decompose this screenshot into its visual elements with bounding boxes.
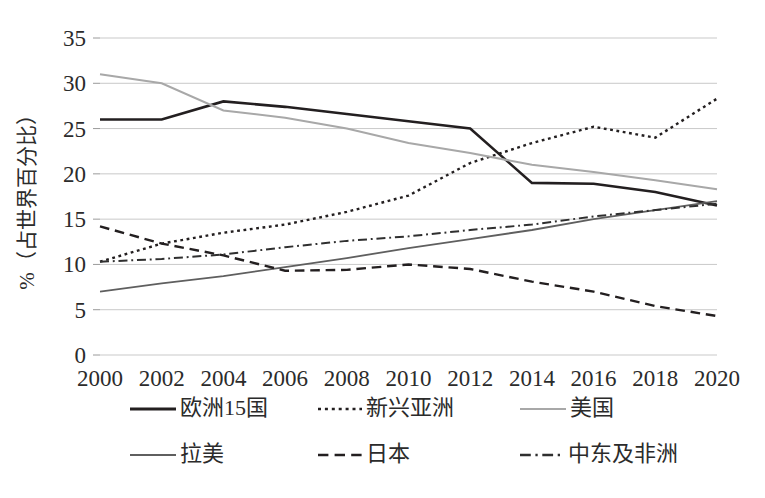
y-tick-label: 35: [63, 26, 86, 51]
x-tick-label: 2010: [386, 366, 432, 391]
y-axis-tick-labels: 05101520253035: [63, 26, 86, 368]
x-tick-label: 2004: [200, 366, 247, 391]
y-tick-label: 25: [63, 117, 86, 142]
series-line-0: [100, 101, 717, 205]
x-tick-label: 2014: [509, 366, 556, 391]
legend-label-2: 美国: [570, 395, 614, 420]
y-tick-label: 30: [63, 71, 86, 96]
y-tick-label: 15: [63, 207, 86, 232]
y-tick-label: 0: [75, 343, 87, 368]
x-tick-label: 2016: [571, 366, 617, 391]
legend-label-0: 欧洲15国: [180, 395, 268, 420]
x-tick-label: 2020: [694, 366, 740, 391]
y-tick-label: 20: [63, 162, 86, 187]
chart-canvas: 05101520253035 2000200220042006200820102…: [0, 0, 765, 498]
x-tick-label: 2012: [447, 366, 493, 391]
x-axis-tick-labels: 2000200220042006200820102012201420162018…: [77, 366, 740, 391]
chart-legend: 欧洲15国新兴亚洲美国拉美日本中东及非洲: [130, 395, 678, 466]
data-series: [100, 74, 717, 316]
legend-label-1: 新兴亚洲: [366, 395, 454, 420]
y-tick-label: 10: [63, 252, 86, 277]
y-axis-title: %（占世界百分比）: [15, 104, 39, 290]
y-tick-label: 5: [75, 298, 87, 323]
x-tick-label: 2000: [77, 366, 123, 391]
line-chart: 05101520253035 2000200220042006200820102…: [0, 0, 765, 498]
legend-label-4: 日本: [366, 441, 410, 466]
tickmarks: [93, 38, 100, 355]
series-line-4: [100, 226, 717, 316]
series-line-5: [100, 204, 717, 262]
x-tick-label: 2008: [324, 366, 370, 391]
x-tick-label: 2018: [632, 366, 678, 391]
legend-label-5: 中东及非洲: [568, 441, 678, 466]
x-tick-label: 2006: [262, 366, 308, 391]
x-tick-label: 2002: [139, 366, 185, 391]
series-line-3: [100, 201, 717, 292]
y-axis-title-text: %（占世界百分比）: [15, 104, 39, 290]
legend-label-3: 拉美: [180, 441, 224, 466]
